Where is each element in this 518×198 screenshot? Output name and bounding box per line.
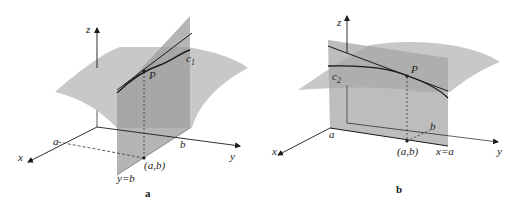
diagram-canvas: z x y a b P c1 (a,b) y=b a z x [0,0,518,198]
plane-label-a: y=b [116,172,135,184]
figure-a: z x y a b P c1 (a,b) y=b a [17,16,248,198]
y-label-a: y [229,150,235,162]
z-label-b: z [336,16,342,28]
z-label-a: z [85,23,91,35]
tick-b-label-a: b [180,138,186,150]
plane-label-b: x=a [435,145,454,157]
y-label-b: y [496,145,502,157]
point-p-label-a: P [148,69,156,81]
x-label-b: x [271,145,277,157]
ab-label-b: (a,b) [397,145,418,158]
point-p-b [405,74,408,77]
tick-b-label-b: b [430,120,436,132]
caption-a: a [145,187,151,198]
tick-a-label-b: a [329,128,335,140]
point-p-a [142,69,145,72]
caption-b: b [396,183,402,195]
x-axis-a [28,127,97,162]
point-ab-b [405,139,408,142]
tick-a-label-a: a [53,135,59,147]
point-p-label-b: P [410,63,418,75]
x-axis-b [278,128,330,155]
x-label-a: x [17,151,23,163]
ab-label-a: (a,b) [144,159,165,172]
figure-b: z x y a b P c2 (a,b) x=a b [271,16,502,195]
